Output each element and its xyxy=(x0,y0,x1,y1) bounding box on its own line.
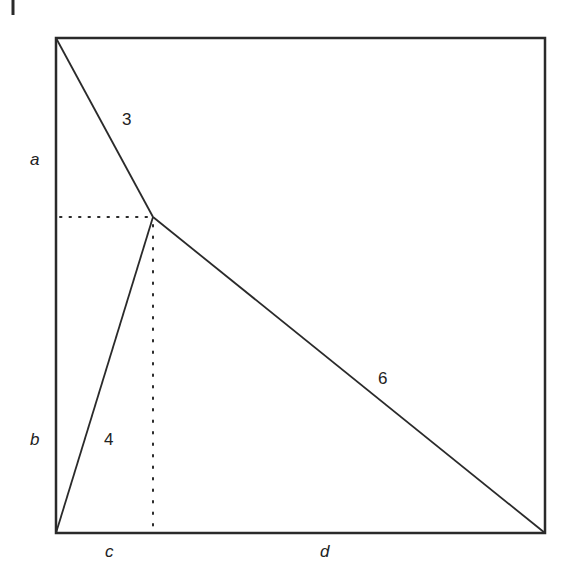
segment-3 xyxy=(56,38,153,217)
label-b: b xyxy=(30,430,39,449)
geometry-diagram: 3 4 6 a b c d xyxy=(0,0,576,583)
label-d: d xyxy=(320,542,330,561)
segment-6 xyxy=(153,217,545,533)
segment-4 xyxy=(56,217,153,533)
label-c: c xyxy=(105,542,114,561)
label-4: 4 xyxy=(104,430,113,449)
label-a: a xyxy=(30,150,39,169)
label-3: 3 xyxy=(122,110,131,129)
label-6: 6 xyxy=(378,369,387,388)
